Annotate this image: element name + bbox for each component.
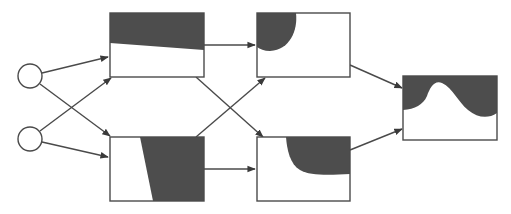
edge-input2-to-hidden1top	[40, 78, 111, 131]
hidden-unit-2-bottom	[257, 137, 350, 201]
output-unit	[403, 76, 497, 140]
input-nodes	[18, 64, 42, 151]
edge-input2-to-hidden1bottom	[42, 142, 108, 157]
input-node-1	[18, 64, 42, 88]
network-diagram	[0, 0, 511, 214]
edge-input1-to-hidden1bottom	[40, 84, 110, 136]
hidden-unit-1-bottom	[110, 137, 204, 201]
edge-hidden2top-to-output	[350, 65, 402, 88]
input-node-2	[18, 127, 42, 151]
hidden-unit-1-top	[110, 13, 204, 77]
edge-hidden2bottom-to-output	[350, 129, 402, 150]
edge-input1-to-hidden1top	[42, 57, 108, 73]
diagram-svg	[0, 0, 511, 214]
hidden-unit-2-top	[257, 13, 350, 77]
